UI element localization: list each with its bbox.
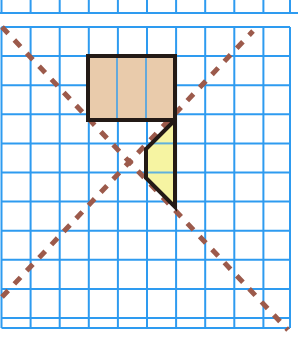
grid-figure-svg	[0, 0, 298, 342]
figure-canvas	[0, 0, 298, 342]
tan-rectangle	[88, 56, 175, 120]
